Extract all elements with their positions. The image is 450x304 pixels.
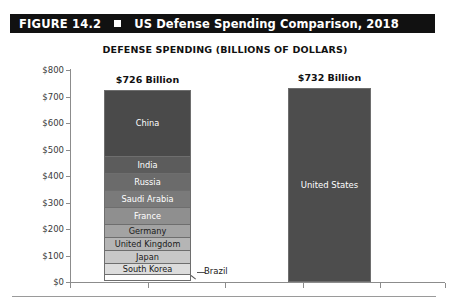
x-axis-tick: [445, 283, 446, 288]
x-axis-tick: [303, 283, 304, 288]
stacked-bar-segment[interactable]: Saudi Arabia: [104, 190, 191, 208]
y-axis-label: $200: [28, 224, 64, 234]
y-axis-label: $100: [28, 251, 64, 261]
stacked-bar-segment[interactable]: United Kingdom: [104, 237, 191, 250]
y-axis-tick: [66, 123, 71, 124]
bottom-divider: [12, 296, 436, 297]
y-axis-tick: [66, 150, 71, 151]
x-axis-tick: [380, 283, 381, 288]
segment-label: Japan: [136, 253, 159, 261]
y-axis-tick: [66, 229, 71, 230]
stacked-bar-segment[interactable]: China: [104, 90, 191, 156]
y-axis-label: $500: [28, 145, 64, 155]
stacked-bar-segment[interactable]: Russia: [104, 173, 191, 189]
segment-label: Germany: [129, 227, 167, 235]
y-axis-tick: [66, 203, 71, 204]
stacked-bar-segment[interactable]: Germany: [104, 224, 191, 237]
stacked-bar-segment[interactable]: Japan: [104, 250, 191, 262]
segment-label: South Korea: [123, 265, 173, 273]
y-axis-label: $300: [28, 198, 64, 208]
stacked-bar[interactable]: ChinaIndiaRussiaSaudi ArabiaFranceGerman…: [104, 90, 191, 282]
y-axis-label: $700: [28, 92, 64, 102]
brazil-callout-label: Brazil: [204, 266, 228, 276]
segment-label: United Kingdom: [115, 240, 181, 248]
united-states-bar[interactable]: United States: [288, 88, 371, 282]
y-axis-tick: [66, 176, 71, 177]
segment-label: Russia: [134, 178, 160, 186]
y-axis-label: $600: [28, 118, 64, 128]
right-bar-total-label: $732 Billion: [288, 72, 371, 83]
stacked-bar-segment[interactable]: India: [104, 156, 191, 173]
brazil-leader-line-diagonal: [191, 275, 196, 279]
segment-label: China: [136, 119, 159, 127]
left-bar-total-label: $726 Billion: [104, 74, 191, 85]
stacked-bar-segment[interactable]: [104, 274, 191, 281]
plot-area: $800$700$600$500$400$300$200$100$0 $726 …: [0, 0, 450, 304]
y-axis-tick: [66, 70, 71, 71]
segment-label: India: [137, 161, 157, 169]
segment-label: Saudi Arabia: [122, 195, 174, 203]
segment-label: France: [134, 212, 161, 220]
x-axis-line: [70, 282, 445, 283]
y-axis-label: $800: [28, 65, 64, 75]
figure-container: FIGURE 14.2 US Defense Spending Comparis…: [0, 0, 450, 304]
united-states-bar-label: United States: [301, 181, 359, 190]
x-axis-tick: [148, 283, 149, 288]
stacked-bar-segment[interactable]: France: [104, 207, 191, 224]
y-axis-tick: [66, 256, 71, 257]
y-axis-tick: [66, 97, 71, 98]
x-axis-tick: [225, 283, 226, 288]
x-axis-tick: [70, 283, 71, 288]
y-axis-label: $400: [28, 171, 64, 181]
stacked-bar-segment[interactable]: South Korea: [104, 263, 191, 274]
y-axis-label: $0: [28, 277, 64, 287]
